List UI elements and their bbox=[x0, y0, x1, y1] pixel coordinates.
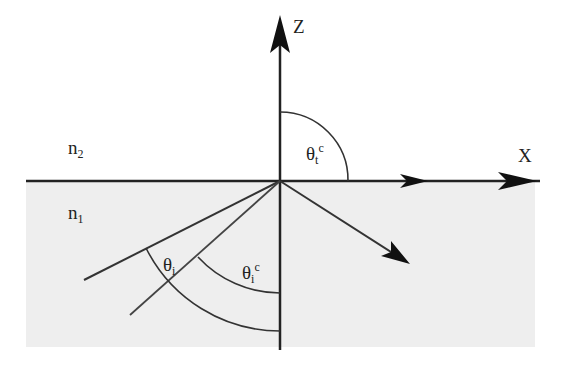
incident-angle-label: θi bbox=[163, 255, 175, 277]
lower-medium-label: n1 bbox=[68, 203, 84, 225]
transmitted-critical-angle-label: θtc bbox=[306, 142, 324, 166]
z-axis-label: Z bbox=[293, 17, 305, 36]
incident-critical-angle-label: θic bbox=[242, 261, 260, 285]
upper-medium-label: n2 bbox=[68, 138, 84, 160]
x-axis-label: X bbox=[518, 146, 532, 165]
refraction-diagram bbox=[0, 0, 563, 368]
